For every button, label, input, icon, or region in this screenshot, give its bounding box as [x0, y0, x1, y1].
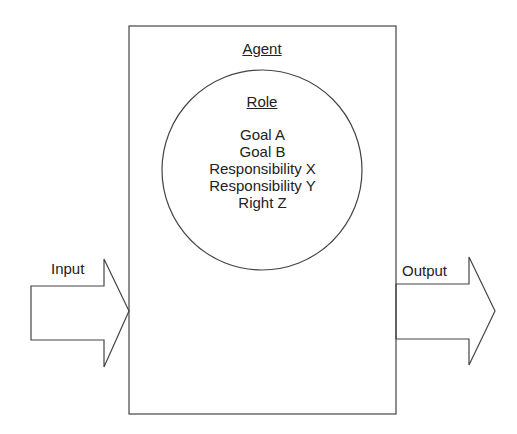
agent-box: [129, 26, 396, 414]
agent-title: Agent: [229, 40, 295, 57]
input-label: Input: [51, 260, 84, 277]
role-title: Role: [229, 93, 295, 110]
diagram-canvas: [0, 0, 517, 434]
output-label: Output: [402, 262, 447, 279]
role-items: Goal A Goal B Responsibility X Responsib…: [163, 126, 362, 211]
role-item: Right Z: [163, 194, 362, 211]
role-item: Goal B: [163, 143, 362, 160]
role-item: Responsibility X: [163, 160, 362, 177]
role-item: Goal A: [163, 126, 362, 143]
role-item: Responsibility Y: [163, 177, 362, 194]
